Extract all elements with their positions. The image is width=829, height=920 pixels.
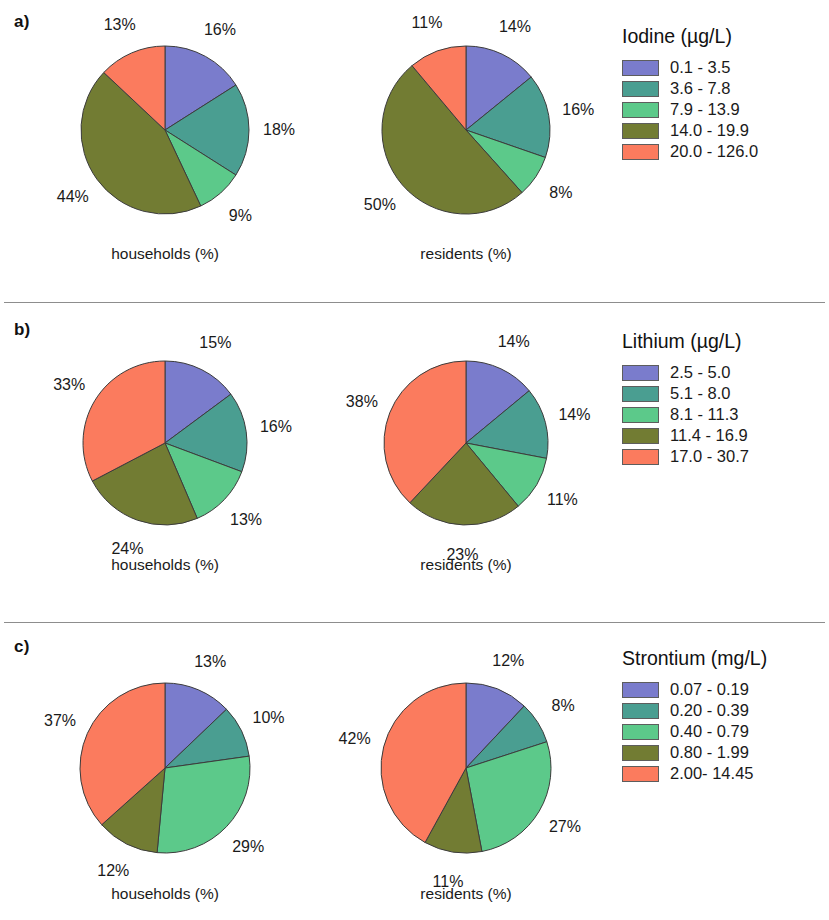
pie-chart: 16%18%9%44%13% bbox=[79, 44, 251, 216]
legend-label: 0.07 - 0.19 bbox=[670, 680, 749, 699]
legend-color-swatch bbox=[622, 60, 659, 76]
panel-iodine: a) 16%18%9%44%13%households (%) 14%16%8%… bbox=[0, 0, 829, 302]
legend-label: 0.40 - 0.79 bbox=[670, 722, 749, 741]
pie-chart: 12%8%27%11%42% bbox=[379, 681, 553, 855]
panel-letter-b: b) bbox=[14, 320, 30, 340]
legend-title: Lithium (µg/L) bbox=[622, 330, 749, 353]
pie-caption: residents (%) bbox=[382, 556, 550, 574]
slice-value-label: 29% bbox=[232, 838, 264, 856]
slice-value-label: 13% bbox=[104, 16, 136, 34]
legend-row: 0.40 - 0.79 bbox=[622, 721, 767, 742]
pie-caption: residents (%) bbox=[380, 245, 552, 263]
slice-value-label: 8% bbox=[552, 697, 575, 715]
slice-value-label: 44% bbox=[57, 188, 89, 206]
legend-label: 20.0 - 126.0 bbox=[670, 142, 758, 161]
panel-lithium: b) 15%16%13%24%33%households (%) 14%14%1… bbox=[0, 303, 829, 622]
legend-row: 20.0 - 126.0 bbox=[622, 141, 758, 162]
legend-row: 2.00- 14.45 bbox=[622, 763, 767, 784]
legend-color-swatch bbox=[622, 682, 659, 698]
legend-label: 7.9 - 13.9 bbox=[670, 100, 740, 119]
legend-row: 5.1 - 8.0 bbox=[622, 383, 749, 404]
slice-value-label: 18% bbox=[263, 121, 295, 139]
pie-group-strontium-residents: 12%8%27%11%42%residents (%) bbox=[379, 681, 553, 855]
legend-color-swatch bbox=[622, 144, 659, 160]
legend-row: 2.5 - 5.0 bbox=[622, 362, 749, 383]
legend-label: 5.1 - 8.0 bbox=[670, 384, 731, 403]
slice-value-label: 14% bbox=[498, 333, 530, 351]
legend-label: 0.80 - 1.99 bbox=[670, 743, 749, 762]
legend-color-swatch bbox=[622, 81, 659, 97]
slice-value-label: 13% bbox=[230, 511, 262, 529]
legend-row: 14.0 - 19.9 bbox=[622, 120, 758, 141]
slice-value-label: 27% bbox=[549, 818, 581, 836]
legend-color-swatch bbox=[622, 449, 659, 465]
legend-color-swatch bbox=[622, 745, 659, 761]
legend-row: 0.07 - 0.19 bbox=[622, 679, 767, 700]
pie-chart: 15%16%13%24%33% bbox=[81, 359, 249, 527]
legend-row: 8.1 - 11.3 bbox=[622, 404, 749, 425]
pie-chart: 13%10%29%12%37% bbox=[78, 681, 252, 855]
legend-label: 3.6 - 7.8 bbox=[670, 79, 731, 98]
pie-group-lithium-residents: 14%14%11%23%38%residents (%) bbox=[382, 359, 550, 527]
legend-label: 2.5 - 5.0 bbox=[670, 363, 731, 382]
pie-caption: households (%) bbox=[79, 245, 251, 263]
slice-value-label: 11% bbox=[547, 491, 578, 509]
legend-row: 7.9 - 13.9 bbox=[622, 99, 758, 120]
legend-label: 14.0 - 19.9 bbox=[670, 121, 749, 140]
slice-value-label: 11% bbox=[412, 14, 443, 32]
slice-value-label: 16% bbox=[260, 418, 292, 436]
legend-row: 17.0 - 30.7 bbox=[622, 446, 749, 467]
slice-value-label: 8% bbox=[549, 184, 572, 202]
slice-value-label: 10% bbox=[252, 709, 284, 727]
slice-value-label: 42% bbox=[339, 730, 371, 748]
slice-value-label: 15% bbox=[199, 334, 231, 352]
legend-iodine: Iodine (µg/L)0.1 - 3.53.6 - 7.87.9 - 13.… bbox=[622, 25, 758, 162]
legend-lithium: Lithium (µg/L)2.5 - 5.05.1 - 8.08.1 - 11… bbox=[622, 330, 749, 467]
legend-strontium: Strontium (mg/L)0.07 - 0.190.20 - 0.390.… bbox=[622, 647, 767, 784]
panel-letter-a: a) bbox=[14, 12, 30, 32]
legend-color-swatch bbox=[622, 766, 659, 782]
slice-value-label: 9% bbox=[229, 207, 252, 225]
slice-value-label: 14% bbox=[499, 18, 531, 36]
slice-value-label: 16% bbox=[204, 21, 236, 39]
legend-row: 0.80 - 1.99 bbox=[622, 742, 767, 763]
pie-caption: households (%) bbox=[81, 556, 249, 574]
legend-label: 0.1 - 3.5 bbox=[670, 58, 731, 77]
slice-value-label: 37% bbox=[44, 712, 76, 730]
pie-chart-figure: a) 16%18%9%44%13%households (%) 14%16%8%… bbox=[0, 0, 829, 920]
pie-group-iodine-households: 16%18%9%44%13%households (%) bbox=[79, 44, 251, 216]
legend-label: 8.1 - 11.3 bbox=[670, 405, 739, 424]
slice-value-label: 33% bbox=[53, 376, 85, 394]
legend-title: Strontium (mg/L) bbox=[622, 647, 767, 670]
legend-color-swatch bbox=[622, 407, 659, 423]
pie-group-lithium-households: 15%16%13%24%33%households (%) bbox=[81, 359, 249, 527]
legend-row: 3.6 - 7.8 bbox=[622, 78, 758, 99]
slice-value-label: 13% bbox=[194, 653, 226, 671]
legend-color-swatch bbox=[622, 703, 659, 719]
pie-group-strontium-households: 13%10%29%12%37%households (%) bbox=[78, 681, 252, 855]
legend-color-swatch bbox=[622, 724, 659, 740]
pie-group-iodine-residents: 14%16%8%50%11%residents (%) bbox=[380, 44, 552, 216]
slice-value-label: 24% bbox=[111, 540, 143, 558]
legend-label: 17.0 - 30.7 bbox=[670, 447, 749, 466]
legend-color-swatch bbox=[622, 365, 659, 381]
slice-value-label: 14% bbox=[558, 406, 590, 424]
legend-label: 11.4 - 16.9 bbox=[670, 426, 748, 445]
slice-value-label: 16% bbox=[562, 101, 594, 119]
slice-value-label: 12% bbox=[492, 652, 524, 670]
legend-color-swatch bbox=[622, 123, 659, 139]
panel-letter-c: c) bbox=[14, 637, 30, 657]
legend-title: Iodine (µg/L) bbox=[622, 25, 758, 48]
legend-row: 0.1 - 3.5 bbox=[622, 57, 758, 78]
legend-label: 0.20 - 0.39 bbox=[670, 701, 749, 720]
pie-chart: 14%14%11%23%38% bbox=[382, 359, 550, 527]
slice-value-label: 12% bbox=[97, 862, 129, 880]
slice-value-label: 50% bbox=[364, 196, 396, 214]
panel-strontium: c) 13%10%29%12%37%households (%) 12%8%27… bbox=[0, 623, 829, 920]
pie-caption: households (%) bbox=[78, 885, 252, 903]
slice-value-label: 38% bbox=[346, 393, 378, 411]
legend-color-swatch bbox=[622, 428, 659, 444]
legend-label: 2.00- 14.45 bbox=[670, 764, 753, 783]
pie-chart: 14%16%8%50%11% bbox=[380, 44, 552, 216]
legend-color-swatch bbox=[622, 386, 659, 402]
